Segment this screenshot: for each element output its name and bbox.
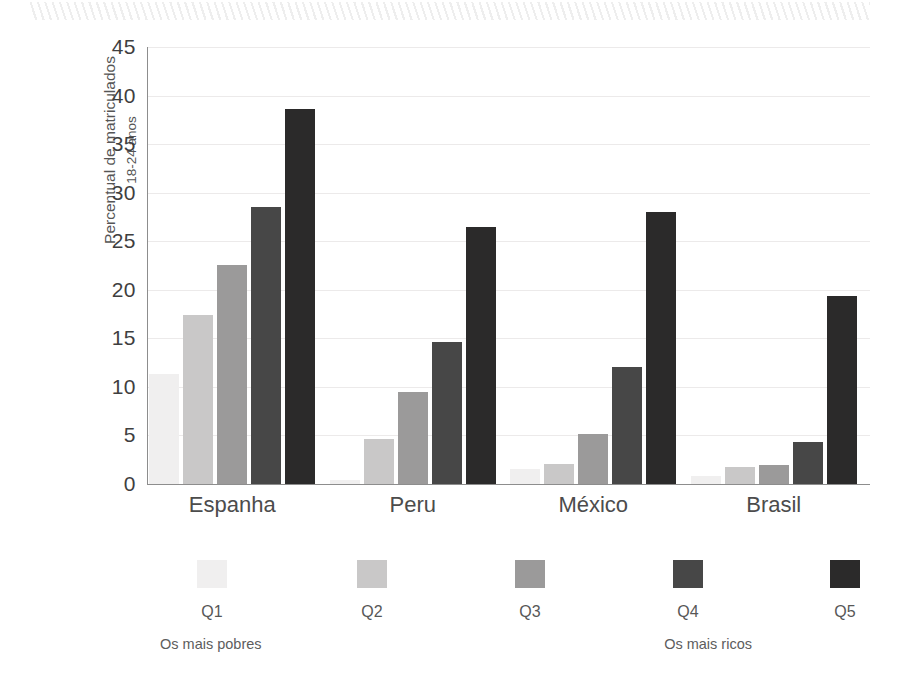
bar-brasil-q5: [827, 296, 857, 484]
bar-peru-q1: [330, 480, 360, 484]
bar-group-brasil: [691, 47, 857, 484]
bar-peru-q5: [466, 227, 496, 484]
legend-item-q1[interactable]: Q1: [197, 560, 227, 621]
legend-label-q5: Q5: [834, 603, 855, 621]
bar-brasil-q2: [725, 467, 755, 484]
bar-méxico-q3: [578, 434, 608, 484]
x-label-brasil: Brasil: [746, 492, 801, 518]
bar-espanha-q1: [149, 374, 179, 484]
y-tick-label: 45: [92, 35, 136, 59]
legend-item-q4[interactable]: Q4: [673, 560, 703, 621]
legend-label-q4: Q4: [677, 603, 698, 621]
bar-espanha-q2: [183, 315, 213, 484]
y-tick-label: 15: [92, 326, 136, 350]
legend-label-q3: Q3: [519, 603, 540, 621]
y-tick-label: 20: [92, 278, 136, 302]
bar-brasil-q1: [691, 476, 721, 484]
bars-layer: [148, 47, 870, 484]
bar-group-peru: [330, 47, 496, 484]
x-axis-line: [147, 484, 870, 485]
bar-peru-q2: [364, 439, 394, 484]
bar-peru-q4: [432, 342, 462, 484]
legend-item-q3[interactable]: Q3: [515, 560, 545, 621]
bar-group-méxico: [510, 47, 676, 484]
bar-chart-figure: Percentual de matriculados 18-24 anos 05…: [0, 0, 900, 684]
legend-note-richest: Os mais ricos: [664, 636, 752, 652]
bar-espanha-q3: [217, 265, 247, 484]
legend-note-poorest: Os mais pobres: [160, 636, 262, 652]
x-axis-category-labels: EspanhaPeruMéxicoBrasil: [148, 492, 870, 532]
bar-méxico-q4: [612, 367, 642, 484]
x-label-espanha: Espanha: [189, 492, 276, 518]
legend-label-q2: Q2: [361, 603, 382, 621]
x-label-peru: Peru: [390, 492, 436, 518]
bar-espanha-q4: [251, 207, 281, 484]
bar-méxico-q5: [646, 212, 676, 484]
legend-item-q2[interactable]: Q2: [357, 560, 387, 621]
x-label-méxico: México: [558, 492, 628, 518]
legend-swatch-q1: [197, 560, 227, 588]
y-tick-label: 5: [92, 423, 136, 447]
chart-legend: Os mais pobres Os mais ricos Q1Q2Q3Q4Q5: [0, 560, 900, 670]
y-axis-tick-labels: 051015202530354045: [86, 47, 136, 484]
legend-label-q1: Q1: [201, 603, 222, 621]
y-tick-label: 35: [92, 132, 136, 156]
bar-brasil-q3: [759, 465, 789, 484]
bar-group-espanha: [149, 47, 315, 484]
legend-item-q5[interactable]: Q5: [830, 560, 860, 621]
legend-swatch-q5: [830, 560, 860, 588]
y-tick-label: 10: [92, 375, 136, 399]
y-tick-label: 30: [92, 181, 136, 205]
legend-swatch-q3: [515, 560, 545, 588]
bar-méxico-q2: [544, 464, 574, 484]
bar-peru-q3: [398, 392, 428, 484]
y-tick-label: 0: [92, 472, 136, 496]
legend-swatch-q4: [673, 560, 703, 588]
bar-brasil-q4: [793, 442, 823, 484]
bar-méxico-q1: [510, 469, 540, 484]
bar-espanha-q5: [285, 109, 315, 484]
y-tick-label: 25: [92, 229, 136, 253]
y-tick-label: 40: [92, 84, 136, 108]
legend-swatch-q2: [357, 560, 387, 588]
